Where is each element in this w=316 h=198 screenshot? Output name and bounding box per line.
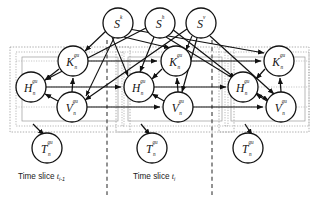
node-S-v: [186, 8, 216, 38]
edge-Sk-K-prev: [85, 31, 106, 51]
node-H-prev: [16, 72, 46, 102]
node-T-prev: [32, 133, 62, 163]
node-V-cur: [163, 92, 193, 122]
node-S-k: [103, 8, 133, 38]
caption-idx: i-1: [59, 176, 65, 182]
node-V-prev: [57, 92, 87, 122]
node-V-next: [266, 92, 296, 122]
node-circles: [16, 8, 296, 163]
node-T-cur: [137, 133, 167, 163]
caption-text: Time slice: [133, 172, 170, 181]
node-H-cur: [124, 72, 154, 102]
edge-V-H-cur: [152, 94, 164, 101]
edge-V-H-next: [256, 94, 267, 101]
node-T-next: [233, 133, 263, 163]
node-K-next: [264, 46, 294, 76]
node-K-prev: [58, 46, 88, 76]
edge-Sv-K-cur: [186, 36, 192, 50]
edge-Sk-H-cur: [112, 37, 128, 76]
graph-svg: [0, 0, 316, 198]
node-H-next: [228, 72, 258, 102]
edge-K-H-cur: [152, 69, 162, 79]
caption-slice-current: Time slice ti: [133, 172, 175, 181]
edge-K-H-next: [256, 69, 265, 79]
edge-V-H-prev: [45, 94, 58, 101]
edge-V-K-cur: [177, 78, 178, 92]
caption-text: Time slice: [18, 172, 55, 181]
edge-V-K-next: [280, 78, 281, 92]
edge-V-K-prev: [72, 78, 73, 92]
caption-slice-prev: Time slice ti-1: [18, 172, 65, 181]
figure-canvas: Sk Sh Sv Kgun Hgun Vgun Tgun Kgun Hgun V…: [0, 0, 316, 198]
node-K-cur: [161, 46, 191, 76]
node-S-h: [145, 8, 175, 38]
